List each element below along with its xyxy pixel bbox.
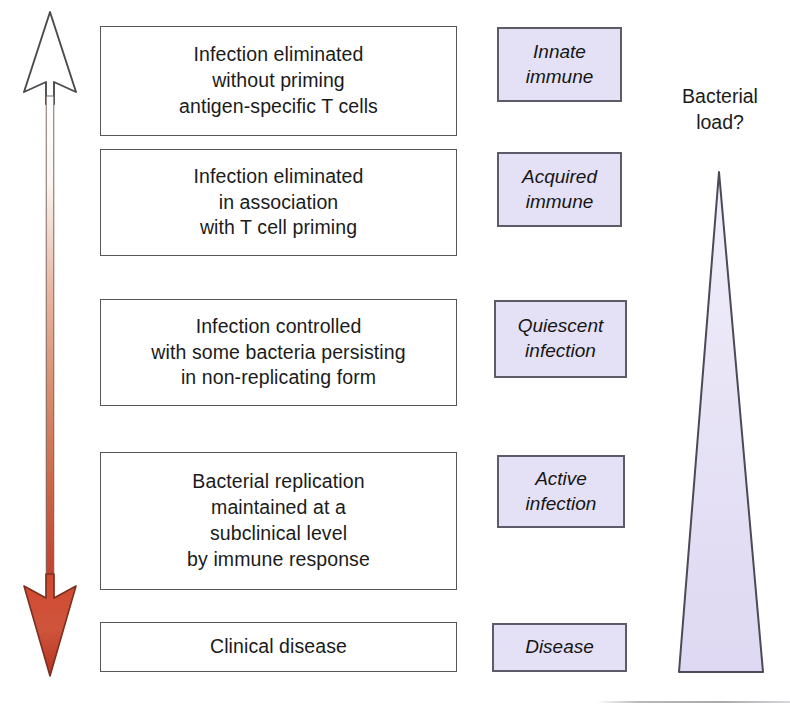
- category-label: Acquired immune: [522, 165, 597, 214]
- arrowhead-up-open-icon: [24, 12, 76, 104]
- arrow-shaft: [46, 96, 54, 596]
- category-label: Innate immune: [526, 40, 594, 89]
- bacterial-load-caption: Bacterial load?: [652, 84, 788, 135]
- category-box-quiescent-infection: Quiescent infection: [494, 300, 627, 378]
- bidirectional-gradient-arrow: [14, 8, 86, 680]
- outcome-box-infection-eliminated-no-priming: Infection eliminated without priming ant…: [100, 26, 457, 136]
- category-box-disease: Disease: [492, 623, 627, 672]
- outcome-box-infection-eliminated-t-cell-priming: Infection eliminated in association with…: [100, 149, 457, 256]
- outcome-box-bacterial-replication-subclinical: Bacterial replication maintained at a su…: [100, 452, 457, 590]
- infection-outcome-diagram: Infection eliminated without priming ant…: [0, 0, 790, 716]
- baseline-rule: [596, 701, 790, 703]
- triangle-shape: [679, 172, 763, 672]
- bacterial-load-triangle: [664, 168, 776, 678]
- category-label: Disease: [525, 635, 594, 660]
- category-box-active-infection: Active infection: [497, 455, 625, 528]
- outcome-label: Bacterial replication maintained at a su…: [179, 469, 378, 573]
- outcome-box-clinical-disease: Clinical disease: [100, 622, 457, 672]
- category-box-acquired-immune: Acquired immune: [497, 152, 622, 227]
- category-label: Quiescent infection: [518, 314, 604, 363]
- category-box-innate-immune: Innate immune: [497, 27, 622, 102]
- category-label: Active infection: [526, 467, 597, 516]
- outcome-box-infection-controlled-persisting-bacteria: Infection controlled with some bacteria …: [100, 299, 457, 406]
- outcome-label: Infection eliminated without priming ant…: [171, 42, 386, 120]
- arrowhead-down-filled-icon: [24, 574, 76, 676]
- outcome-label: Infection controlled with some bacteria …: [143, 314, 413, 392]
- outcome-label: Infection eliminated in association with…: [185, 164, 371, 242]
- outcome-label: Clinical disease: [202, 634, 355, 660]
